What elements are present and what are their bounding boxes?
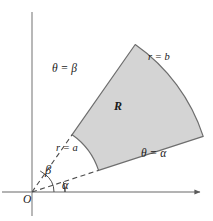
origin-label: O (23, 194, 31, 206)
theta-equals-alpha-label: θ = α (141, 148, 166, 160)
beta-arc-tick (40, 171, 44, 174)
beta-angle-label: β (45, 164, 51, 177)
region-R-shape (72, 45, 203, 171)
region-label: R (114, 100, 122, 112)
theta-equals-beta-label: θ = β (52, 63, 77, 75)
r-equals-b-label: r = b (148, 52, 170, 63)
polar-region-figure: O α β θ = β θ = α r = a r = b R (0, 0, 213, 221)
figure-canvas (0, 0, 213, 221)
alpha-angle-label: α (62, 179, 69, 192)
r-equals-a-label: r = a (56, 143, 78, 154)
